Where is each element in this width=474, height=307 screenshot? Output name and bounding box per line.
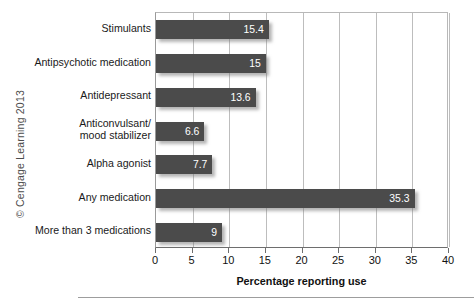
- bar-group[interactable]: 15.4: [156, 20, 269, 39]
- x-tick-label: 25: [323, 254, 353, 266]
- x-tick-label: 5: [177, 254, 207, 266]
- tick-mark: [338, 248, 339, 253]
- category-axis-labels: StimulantsAntipsychotic medicationAntide…: [18, 12, 151, 248]
- bar-group[interactable]: 7.7: [156, 155, 212, 174]
- category-label: Antidepressant: [18, 90, 151, 102]
- gridline: [412, 13, 413, 247]
- gridline: [339, 13, 340, 247]
- gridline: [266, 13, 267, 247]
- x-tick-label: 20: [287, 254, 317, 266]
- bar-value-label: 15: [249, 54, 261, 73]
- tick-mark: [265, 248, 266, 253]
- bar-value-label: 15.4: [244, 20, 264, 39]
- gridline: [449, 13, 450, 247]
- bar-value-label: 9: [211, 223, 217, 242]
- x-tick-label: 15: [250, 254, 280, 266]
- category-label: Any medication: [18, 192, 151, 204]
- tick-mark: [228, 248, 229, 253]
- tick-mark: [411, 248, 412, 253]
- category-label: Anticonvulsant/mood stabilizer: [18, 118, 151, 141]
- bar[interactable]: [156, 189, 415, 208]
- figure: © Cengage Learning 2013 StimulantsAntips…: [0, 0, 474, 307]
- plot-area: 15.41513.66.67.735.39: [155, 12, 448, 248]
- gridline: [376, 13, 377, 247]
- bar-value-label: 35.3: [389, 189, 409, 208]
- x-tick-label: 35: [396, 254, 426, 266]
- bar-value-label: 7.7: [193, 155, 207, 174]
- tick-mark: [375, 248, 376, 253]
- x-axis-title: Percentage reporting use: [155, 275, 448, 287]
- bar-group[interactable]: 6.6: [156, 122, 204, 141]
- bar-value-label: 13.6: [230, 88, 250, 107]
- x-tick-label: 10: [213, 254, 243, 266]
- bar-value-label: 6.6: [185, 122, 199, 141]
- x-tick-label: 30: [360, 254, 390, 266]
- gridline: [229, 13, 230, 247]
- bottom-divider: [78, 297, 474, 298]
- bar-group[interactable]: 9: [156, 223, 222, 242]
- x-tick-label: 40: [433, 254, 463, 266]
- tick-mark: [302, 248, 303, 253]
- gridline: [303, 13, 304, 247]
- category-label: Alpha agonist: [18, 158, 151, 170]
- tick-mark: [155, 248, 156, 253]
- tick-mark: [448, 248, 449, 253]
- x-axis-ticks: 0510152025303540: [155, 248, 448, 254]
- category-label: Antipsychotic medication: [18, 57, 151, 69]
- category-label: More than 3 medications: [18, 225, 151, 237]
- bar-group[interactable]: 13.6: [156, 88, 256, 107]
- bar-group[interactable]: 35.3: [156, 189, 415, 208]
- x-tick-label: 0: [140, 254, 170, 266]
- bar-group[interactable]: 15: [156, 54, 266, 73]
- category-label: Stimulants: [18, 23, 151, 35]
- tick-mark: [192, 248, 193, 253]
